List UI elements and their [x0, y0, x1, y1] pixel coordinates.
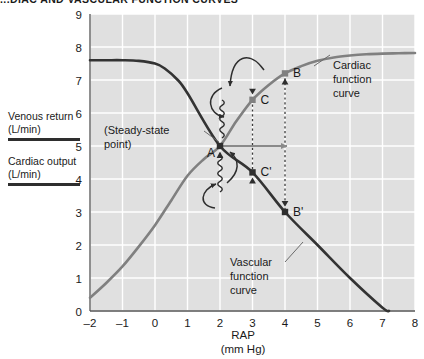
x-axis-title-group: RAP (mm Hg)	[221, 329, 266, 355]
vascular-curve-label-line2: function	[230, 270, 269, 282]
legend-label-venous-return-line2: (L/min)	[8, 123, 80, 136]
x-tick-label: 5	[314, 317, 320, 329]
cardiac-curve-label-line3: curve	[333, 87, 360, 99]
x-tick-label: 1	[184, 317, 190, 329]
legend-label-cardiac-output-line1: Cardiac output	[8, 155, 80, 168]
legend-swatch-venous-return	[8, 138, 80, 141]
point-label-a: A	[207, 146, 215, 160]
x-tick-label: –2	[84, 317, 97, 329]
vascular-curve-label-line3: curve	[230, 284, 257, 296]
legend-entry-cardiac-output: Cardiac output (L/min)	[8, 155, 80, 186]
x-tick-label: 4	[282, 317, 289, 329]
figure-title: ...DIAC AND VASCULAR FUNCTION CURVES	[0, 0, 424, 5]
x-tick-label: 6	[347, 317, 353, 329]
y-tick-label: 2	[76, 240, 82, 252]
x-tick-label: 3	[249, 317, 255, 329]
x-axis-units: (mm Hg)	[221, 343, 266, 355]
legend-label-venous-return-line1: Venous return	[8, 110, 80, 123]
cardiac-curve-label-line1: Cardiac	[333, 59, 371, 71]
y-tick-label: 1	[76, 273, 82, 285]
figure-root: ...DIAC AND VASCULAR FUNCTION CURVES Ven…	[0, 0, 424, 359]
marker-point-bp	[282, 209, 288, 215]
marker-point-c	[249, 97, 255, 103]
x-tick-label: 0	[152, 317, 158, 329]
y-tick-label: 9	[76, 9, 82, 21]
y-tick-label: 0	[76, 306, 82, 318]
steady-state-label-line2: point)	[104, 138, 132, 150]
y-tick-label: 5	[76, 141, 82, 153]
x-tick-label: 7	[379, 317, 385, 329]
steady-state-label-line1: (Steady-state	[104, 124, 169, 136]
x-axis-title: RAP	[231, 329, 255, 341]
point-label-cp: C'	[261, 165, 272, 179]
marker-point-a	[217, 143, 223, 149]
y-tick-label: 8	[76, 42, 82, 54]
vascular-curve-label-line1: Vascular	[230, 256, 272, 268]
cardiac-curve-label-line2: function	[333, 73, 372, 85]
x-axis-tick-labels: –2–1012345678	[84, 317, 419, 329]
point-label-c: C	[261, 93, 270, 107]
legend-label-cardiac-output-line2: (L/min)	[8, 168, 80, 181]
y-tick-label: 7	[76, 75, 82, 87]
marker-point-cp	[249, 169, 255, 175]
x-tick-label: 8	[412, 317, 418, 329]
legend-swatch-cardiac-output	[8, 183, 80, 186]
marker-point-b	[282, 70, 288, 76]
point-label-bp: B'	[293, 205, 303, 219]
point-label-b: B	[293, 66, 301, 80]
legend-entry-venous-return: Venous return (L/min)	[8, 110, 80, 141]
y-tick-label: 3	[76, 207, 82, 219]
x-tick-label: 2	[217, 317, 223, 329]
x-tick-label: –1	[116, 317, 129, 329]
